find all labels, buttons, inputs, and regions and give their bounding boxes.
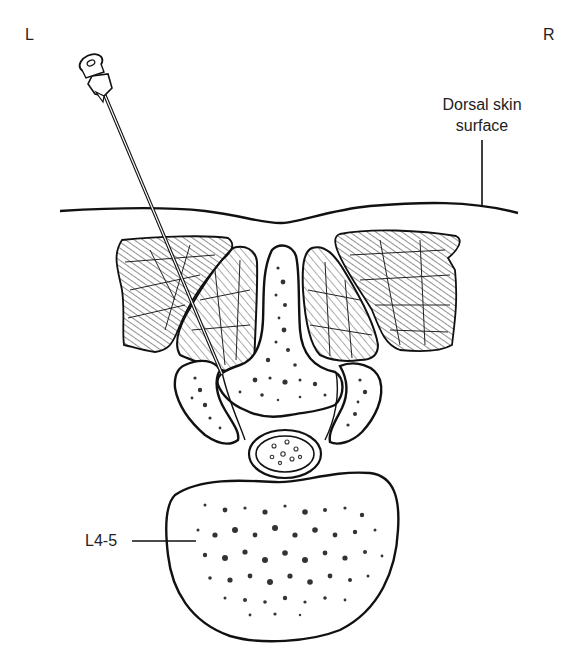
vertebral-level-label: L4-5 <box>85 533 117 549</box>
vertebral-body <box>166 473 398 642</box>
skin-surface-label-line1: Dorsal skin <box>432 97 532 113</box>
dorsal-skin-surface <box>60 203 518 223</box>
right-orientation-label: R <box>543 27 555 43</box>
needle-hub-icon <box>77 51 112 102</box>
skin-surface-label-line2: surface <box>432 118 532 134</box>
thecal-sac <box>249 430 321 478</box>
left-orientation-label: L <box>25 27 34 43</box>
